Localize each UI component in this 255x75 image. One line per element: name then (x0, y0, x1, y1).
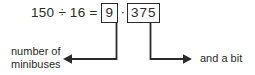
annotated-equation-figure: 150 ÷ 16 = 9 · 375 number of minibuses a… (0, 0, 255, 75)
right-arrowhead-icon (183, 54, 192, 64)
left-leader-line (70, 23, 117, 59)
right-annotation-label: and a bit (200, 52, 242, 65)
left-annotation-line1: number of (11, 45, 61, 58)
left-annotation-label: number of minibuses (11, 45, 61, 71)
left-arrowhead-icon (63, 54, 72, 64)
left-annotation-line2: minibuses (11, 58, 61, 71)
right-leader-line (151, 23, 186, 59)
